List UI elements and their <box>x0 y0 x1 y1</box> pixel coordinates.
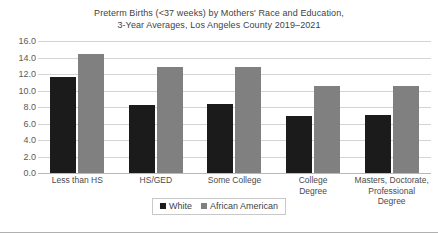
chart-title-line-1: Preterm Births (<37 weeks) by Mothers' R… <box>0 8 438 20</box>
bar-groups <box>38 41 431 173</box>
bar[interactable] <box>393 86 419 173</box>
y-axis: 16.014.012.010.08.06.04.02.00.0 <box>0 41 36 173</box>
bar-group <box>195 41 274 173</box>
chart-legend: WhiteAfrican American <box>152 198 286 215</box>
bar[interactable] <box>207 104 233 173</box>
bar[interactable] <box>314 86 340 173</box>
bar-group <box>274 41 353 173</box>
bar[interactable] <box>129 105 155 173</box>
y-axis-tick-label: 16.0 <box>4 36 36 46</box>
y-axis-tick-label: 0.0 <box>4 168 36 178</box>
y-axis-tick-label: 14.0 <box>4 53 36 63</box>
y-axis-tick-label: 2.0 <box>4 152 36 162</box>
legend-swatch-icon <box>160 203 166 209</box>
legend-label: African American <box>210 201 278 211</box>
legend-item[interactable]: White <box>160 201 192 211</box>
chart-title: Preterm Births (<37 weeks) by Mothers' R… <box>0 8 438 31</box>
bar[interactable] <box>365 115 391 173</box>
bar-group <box>117 41 196 173</box>
bar[interactable] <box>50 77 76 173</box>
y-axis-tick-label: 10.0 <box>4 86 36 96</box>
y-axis-tick-label: 12.0 <box>4 69 36 79</box>
bar[interactable] <box>235 67 261 173</box>
x-axis-tick-label: Less than HS <box>38 175 117 207</box>
chart-title-line-2: 3-Year Averages, Los Angeles County 2019… <box>0 20 438 32</box>
x-axis-tick-label: Masters, Doctorate,Professional Degree <box>352 175 431 207</box>
bar[interactable] <box>157 67 183 173</box>
plot-area <box>38 41 431 173</box>
y-axis-tick-label: 6.0 <box>4 119 36 129</box>
legend-label: White <box>169 201 192 211</box>
y-axis-tick-label: 8.0 <box>4 102 36 112</box>
y-axis-tick-label: 4.0 <box>4 135 36 145</box>
bar[interactable] <box>286 116 312 173</box>
legend-item[interactable]: African American <box>201 201 278 211</box>
bar-group <box>38 41 117 173</box>
gridline <box>38 173 431 174</box>
bar[interactable] <box>78 54 104 173</box>
legend-swatch-icon <box>201 203 207 209</box>
bar-group <box>352 41 431 173</box>
bar-chart: Preterm Births (<37 weeks) by Mothers' R… <box>0 0 438 233</box>
